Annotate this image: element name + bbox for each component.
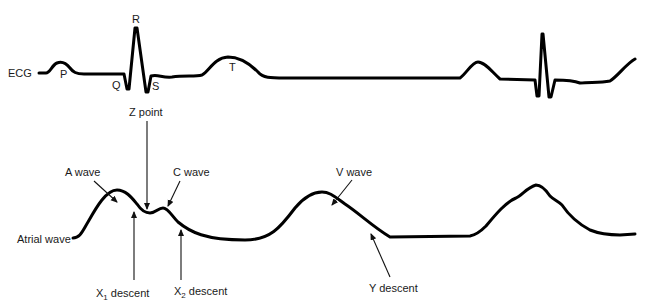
c-wave-label: C wave — [173, 166, 210, 178]
ecg-trace — [39, 28, 635, 97]
t-wave-label: T — [229, 61, 236, 73]
v-wave-label: V wave — [336, 166, 372, 178]
q-wave-label: Q — [112, 79, 121, 91]
a-wave-label: A wave — [65, 166, 100, 178]
p-wave-label: P — [60, 68, 67, 80]
y-descent-arrow — [371, 234, 390, 277]
atrial-wave-label: Atrial wave — [17, 233, 71, 245]
x1-descent-label: X1 descent — [96, 287, 149, 302]
y-descent-label: Y descent — [369, 282, 418, 294]
c-wave-arrow — [168, 181, 180, 206]
ecg-label: ECG — [8, 67, 32, 79]
r-wave-label: R — [132, 13, 140, 25]
z-point-label: Z point — [129, 106, 163, 118]
atrial-trace — [73, 185, 635, 240]
s-wave-label: S — [152, 80, 159, 92]
x2-descent-label: X2 descent — [174, 285, 227, 300]
ecg-atrial-diagram: ECG P Q R S T Atrial wave Z point A wave… — [0, 0, 645, 305]
